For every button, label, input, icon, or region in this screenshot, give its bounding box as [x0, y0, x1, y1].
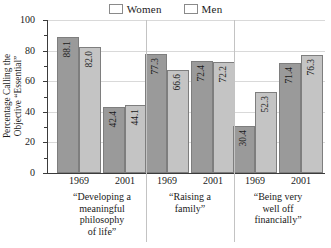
bar-value-label: 88.1	[63, 41, 72, 57]
bar-value-label: 77.3	[151, 58, 160, 74]
y-axis-title-line-2: Objective “Essential”	[13, 21, 24, 171]
y-tick-major	[43, 51, 48, 52]
bar-value-label: 30.4	[239, 130, 248, 146]
legend-swatch-women-icon	[109, 4, 123, 14]
x-axis-year-label: 2001	[203, 176, 223, 186]
x-axis-year-label: 2001	[115, 176, 135, 186]
bar-value-label: 71.4	[285, 67, 294, 83]
group-caption: “Developing ameaningfulphilosophyof life…	[73, 191, 131, 237]
y-tick-major	[43, 173, 48, 174]
y-tick-major	[43, 142, 48, 143]
bar: 30.4	[233, 126, 255, 174]
gridline	[47, 20, 325, 21]
bar-value-label: 44.1	[131, 109, 140, 125]
group-caption-line: family”	[169, 203, 211, 215]
chart-legend: Women Men	[0, 1, 331, 17]
x-axis-line	[47, 173, 325, 174]
y-axis-title-line-1: Percentage Calling the	[2, 21, 13, 171]
y-tick-minor	[44, 158, 48, 159]
bar: 76.3	[301, 55, 323, 173]
group-caption: “Being verywell offfinancially”	[254, 191, 303, 226]
legend-entry-women: Women	[109, 4, 162, 15]
bar: 52.3	[255, 92, 277, 173]
group-caption-line: well off	[254, 203, 303, 215]
y-axis-title: Percentage Calling the Objective “Essent…	[0, 18, 26, 174]
group-separator	[234, 20, 235, 242]
y-tick-minor	[44, 66, 48, 67]
bar: 72.2	[213, 62, 235, 173]
bar-value-label: 42.4	[109, 111, 118, 127]
y-tick-label: 60	[25, 76, 35, 86]
x-axis-year-label: 1969	[69, 176, 89, 186]
y-tick-major	[43, 112, 48, 113]
y-tick-label: 100	[20, 15, 35, 25]
y-tick-minor	[44, 35, 48, 36]
group-separator	[146, 20, 147, 242]
group-caption: “Raising afamily”	[169, 191, 211, 214]
bar-chart: Women Men Percentage Calling the Objecti…	[0, 0, 331, 248]
bar: 44.1	[125, 105, 147, 173]
x-axis-year-label: 1969	[245, 176, 265, 186]
y-tick-label: 80	[25, 46, 35, 56]
bar-value-label: 76.3	[307, 59, 316, 75]
group-caption-line: meaningful	[73, 203, 131, 215]
y-tick-label: 0	[30, 168, 35, 178]
bar: 88.1	[57, 37, 79, 173]
bar: 66.6	[167, 70, 189, 173]
y-tick-label: 20	[25, 137, 35, 147]
y-tick-minor	[44, 127, 48, 128]
legend-entry-men: Men	[184, 4, 223, 15]
y-tick-minor	[44, 97, 48, 98]
group-caption-line: of life”	[73, 226, 131, 238]
group-caption-line: “Raising a	[169, 191, 211, 203]
bar: 71.4	[279, 63, 301, 173]
plot-area: 100806040200 88.182.042.444.177.366.672.…	[47, 20, 325, 174]
bar-value-label: 72.4	[197, 65, 206, 81]
legend-label-men: Men	[202, 4, 223, 15]
bar: 42.4	[103, 107, 125, 173]
group-caption-line: financially”	[254, 214, 303, 226]
bar: 77.3	[145, 54, 167, 173]
bar: 82.0	[79, 47, 101, 173]
legend-label-women: Women	[127, 4, 162, 15]
legend-swatch-men-icon	[184, 4, 198, 14]
x-axis-year-label: 2001	[291, 176, 311, 186]
bar-value-label: 66.6	[173, 74, 182, 90]
y-tick-label: 40	[25, 107, 35, 117]
bar-value-label: 72.2	[219, 66, 228, 82]
group-caption-line: philosophy	[73, 214, 131, 226]
y-tick-major	[43, 20, 48, 21]
bar-value-label: 82.0	[85, 51, 94, 67]
y-tick-major	[43, 81, 48, 82]
bar: 72.4	[191, 61, 213, 173]
x-axis-year-label: 1969	[157, 176, 177, 186]
group-caption-line: “Developing a	[73, 191, 131, 203]
bar-value-label: 52.3	[261, 96, 270, 112]
group-caption-line: “Being very	[254, 191, 303, 203]
